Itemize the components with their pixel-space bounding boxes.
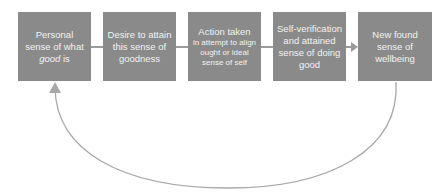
box-wellbeing: New found sense of wellbeing: [358, 12, 432, 81]
arrowhead-up-icon: [49, 82, 61, 93]
arrowhead-right-icon: [351, 42, 358, 52]
box-text: New found sense of wellbeing: [362, 29, 428, 65]
feedback-loop-curve: [55, 82, 396, 188]
